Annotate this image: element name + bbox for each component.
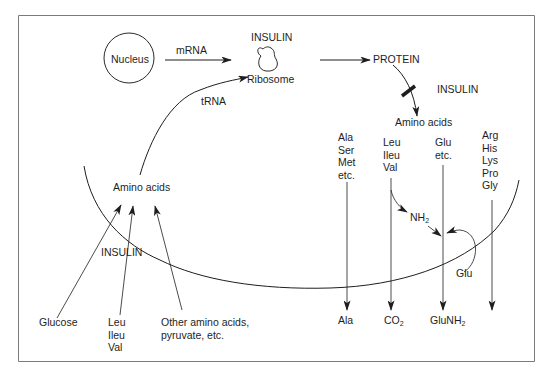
group1-amino-acids: Ala Ser Met etc.	[338, 131, 356, 181]
protein-label: PROTEIN	[373, 53, 420, 66]
group1-ala: Ala	[338, 131, 356, 144]
insulin-left-label: INSULIN	[101, 246, 142, 259]
diagram-canvas: Nucleus mRNA INSULIN Ribosome PROTEIN IN…	[0, 0, 550, 377]
glunh2-subscript: 2	[462, 320, 466, 327]
bcaa-uptake-list: Leu Ileu Val	[108, 316, 126, 354]
glu-donor-arrow	[447, 230, 476, 272]
group4-lys: Lys	[482, 154, 498, 167]
group1-ser: Ser	[338, 144, 356, 157]
ala-output-label: Ala	[338, 314, 353, 327]
amino-acids-right-label: Amino acids	[395, 116, 452, 129]
bcaa-uptake-val: Val	[108, 341, 126, 354]
proteolysis-arrow	[393, 65, 417, 116]
mrna-label: mRNA	[176, 44, 207, 57]
bcaa-uptake-arrow	[120, 206, 133, 315]
co2-text: CO	[384, 314, 400, 326]
trna-label: tRNA	[201, 95, 226, 108]
glunh2-output-label: GluNH2	[430, 314, 465, 327]
group4-his: His	[482, 142, 498, 155]
group1-met: Met	[338, 156, 356, 169]
group3-amino-acids: Glu etc.	[435, 136, 452, 161]
glu-donor-label: Glu	[456, 267, 472, 280]
nucleus-label: Nucleus	[111, 53, 149, 66]
bcaa-to-nh2-arrow	[391, 190, 407, 212]
nh2-text: NH	[410, 211, 425, 223]
glucose-arrow	[57, 205, 121, 318]
group4-pro: Pro	[482, 167, 498, 180]
bcaa-uptake-ileu: Ileu	[108, 329, 126, 342]
other-aa-uptake-arrow	[155, 206, 182, 310]
bcaa-uptake-leu: Leu	[108, 316, 126, 329]
group4-amino-acids: Arg His Lys Pro Gly	[482, 129, 498, 192]
group4-arg: Arg	[482, 129, 498, 142]
other-aa-line1: Other amino acids,	[161, 316, 249, 329]
group2-leu: Leu	[383, 136, 401, 149]
co2-output-label: CO2	[384, 314, 404, 327]
nh2-to-glutamine-arrow	[428, 226, 441, 236]
insulin-right-label: INSULIN	[437, 83, 478, 96]
group3-etc: etc.	[435, 149, 452, 162]
group1-etc: etc.	[338, 169, 356, 182]
amino-acids-left-label: Amino acids	[113, 181, 170, 194]
diagram-lines	[0, 0, 550, 377]
other-amino-acids-label: Other amino acids, pyruvate, etc.	[161, 316, 249, 341]
ribosome-icon	[258, 47, 278, 71]
trna-arrow	[140, 77, 248, 175]
group3-glu: Glu	[435, 136, 452, 149]
glucose-label: Glucose	[39, 316, 78, 329]
ribosome-label: Ribosome	[247, 73, 294, 86]
group4-gly: Gly	[482, 179, 498, 192]
group2-val: Val	[383, 161, 401, 174]
group2-amino-acids: Leu Ileu Val	[383, 136, 401, 174]
insulin-inhibition-bar	[402, 86, 415, 96]
nh2-label: NH2	[410, 211, 429, 224]
other-aa-line2: pyruvate, etc.	[161, 329, 249, 342]
co2-subscript: 2	[400, 320, 404, 327]
insulin-top-label: INSULIN	[251, 31, 292, 44]
group2-ileu: Ileu	[383, 149, 401, 162]
glunh2-text: GluNH	[430, 314, 462, 326]
nh2-subscript: 2	[425, 217, 429, 224]
